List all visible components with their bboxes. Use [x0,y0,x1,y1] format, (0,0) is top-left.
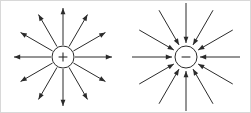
field-line-arrowhead [99,76,106,81]
field-line-arrowhead [106,55,112,60]
field-line-arrowhead [198,45,205,50]
field-line-arrowhead [21,76,28,81]
field-line-arrowhead [61,8,66,14]
field-line-arrowhead [193,38,198,45]
electric-field-figure [0,0,251,113]
field-line-arrowhead [200,55,206,60]
field-diagram-canvas [0,0,251,113]
field-line-arrowhead [174,38,179,45]
negative-charge-diagram [132,3,240,111]
field-line-arrowhead [82,93,87,100]
field-line-arrowhead [21,33,28,38]
field-line-arrowhead [198,64,205,69]
field-line-arrowhead [14,55,20,60]
field-line-arrowhead [39,15,44,22]
field-line-arrowhead [184,71,189,77]
field-line-arrowhead [39,93,44,100]
field-line-arrowhead [99,33,106,38]
field-line-arrowhead [174,69,179,76]
field-line-arrowhead [193,69,198,76]
field-line-arrowhead [167,45,174,50]
field-line-arrowhead [167,64,174,69]
field-line-arrowhead [82,15,87,22]
positive-charge-diagram [14,8,112,106]
field-line-arrowhead [61,100,66,106]
field-line-arrowhead [184,37,189,43]
field-line-arrowhead [166,55,172,60]
